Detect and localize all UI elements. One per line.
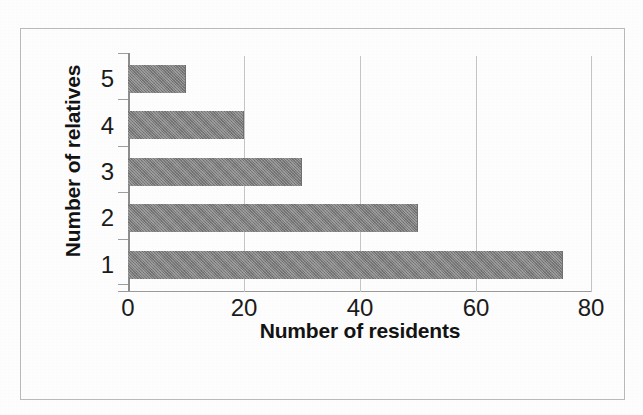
- y-tick-label: 4: [101, 114, 114, 138]
- x-axis-title: Number of residents: [128, 319, 592, 343]
- bar-row: 5: [128, 56, 592, 102]
- y-axis-tick: [118, 146, 128, 147]
- chart-screenshot: Number of relatives 5 4: [0, 0, 643, 415]
- y-tick-label: 5: [101, 67, 114, 91]
- x-axis-line: [118, 291, 592, 292]
- plot-area: 5 4 3 2 1 0 20 40 60 80: [128, 56, 592, 288]
- x-tick-label-40: 40: [347, 296, 374, 320]
- bar-category-4: [128, 111, 244, 139]
- y-tick-label: 3: [101, 160, 114, 184]
- x-tick-label-60: 60: [463, 296, 490, 320]
- bar-row: 2: [128, 195, 592, 241]
- bar-row: 3: [128, 149, 592, 195]
- bar-category-5: [128, 65, 186, 93]
- y-tick-label: 1: [101, 253, 114, 277]
- bar-category-2: [128, 204, 418, 232]
- y-axis-title: Number of relatives: [61, 51, 85, 271]
- y-axis-tick: [118, 239, 128, 240]
- bar-row: 4: [128, 102, 592, 148]
- x-tick-label-20: 20: [231, 296, 258, 320]
- y-axis-tick: [118, 99, 128, 100]
- x-tick-label-0: 0: [121, 296, 134, 320]
- x-tick-label-80: 80: [578, 296, 605, 320]
- bar-category-3: [128, 158, 302, 186]
- y-axis-tick: [118, 53, 128, 54]
- bar-row: 1: [128, 242, 592, 288]
- y-axis-tick: [118, 192, 128, 193]
- y-axis-tick: [118, 284, 128, 285]
- y-tick-label: 2: [101, 206, 114, 230]
- figure-border: Number of relatives 5 4: [20, 28, 625, 400]
- bar-category-1: [128, 251, 563, 279]
